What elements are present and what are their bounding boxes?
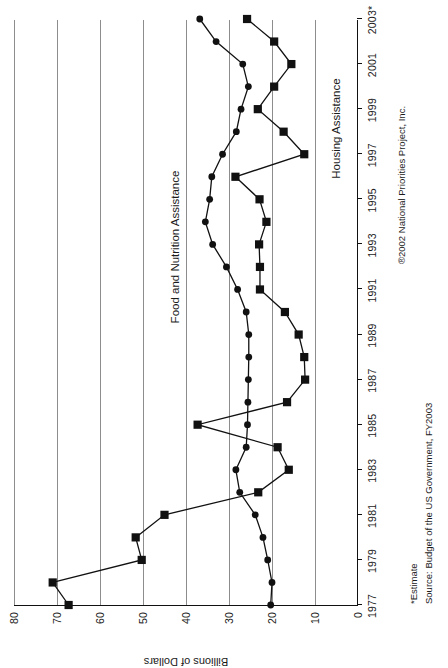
x-tick-label: 2001	[366, 53, 378, 77]
data-point	[132, 533, 140, 541]
x-tick-label: 1995	[366, 188, 378, 212]
data-point	[243, 15, 251, 23]
data-point	[206, 196, 213, 203]
data-point	[245, 331, 252, 338]
data-point	[287, 60, 295, 68]
data-point	[285, 466, 293, 474]
chart-page: Billions of Dollars 01020304050607080 19…	[0, 0, 448, 668]
y-tick-label: 10	[309, 606, 321, 624]
data-point	[233, 128, 240, 135]
y-tick-label: 20	[266, 606, 278, 624]
data-point	[223, 264, 230, 271]
data-point	[160, 511, 168, 519]
data-point	[209, 241, 216, 248]
data-point	[255, 195, 263, 203]
data-point	[239, 61, 246, 68]
copyright-notice: ®2002 National Priorities Project, Inc.	[396, 106, 407, 264]
x-tick-label: 1999	[366, 98, 378, 122]
data-point	[243, 309, 250, 316]
footnote-estimate: *Estimate	[408, 563, 419, 604]
chart-stage: Billions of Dollars 01020304050607080 19…	[0, 0, 448, 668]
x-tick-label: 1997	[366, 143, 378, 167]
data-point	[254, 105, 262, 113]
data-point	[254, 488, 262, 496]
data-point	[232, 466, 239, 473]
y-tick-label: 80	[8, 606, 20, 624]
data-point	[196, 16, 203, 23]
data-point	[138, 556, 146, 564]
data-point	[219, 151, 226, 158]
data-point	[255, 240, 263, 248]
data-point	[236, 489, 243, 496]
y-tick-label: 50	[137, 606, 149, 624]
data-point	[65, 601, 73, 609]
x-tick-label: 1991	[366, 278, 378, 302]
x-tick-label: 1993	[366, 233, 378, 257]
data-point	[243, 444, 250, 451]
y-tick-label: 70	[51, 606, 63, 624]
data-point	[280, 128, 288, 136]
data-point	[238, 106, 245, 113]
x-tick-label: 1985	[366, 414, 378, 438]
data-point	[234, 286, 241, 293]
data-point	[270, 37, 278, 45]
data-point	[283, 398, 291, 406]
data-point	[273, 443, 281, 451]
footnote-source: Source: Budget of the US Government, FY2…	[423, 403, 434, 604]
plot-area	[14, 20, 358, 606]
data-point	[194, 421, 202, 429]
data-point	[267, 602, 274, 609]
series-label-housing: Housing Assistance	[330, 78, 342, 178]
x-tick-label: 2003*	[366, 6, 378, 34]
x-tick-label: 1989	[366, 323, 378, 347]
x-tick-label: 1983	[366, 459, 378, 483]
data-point	[300, 353, 308, 361]
data-point	[260, 534, 267, 541]
data-point	[270, 83, 278, 91]
data-point	[281, 308, 289, 316]
data-point	[202, 218, 209, 225]
data-point	[252, 511, 259, 518]
data-point	[262, 218, 270, 226]
data-point	[231, 173, 239, 181]
data-point	[49, 578, 57, 586]
data-point	[300, 150, 308, 158]
data-point	[295, 330, 303, 338]
y-tick-label: 30	[223, 606, 235, 624]
x-tick-label: 1981	[366, 504, 378, 528]
data-lines	[14, 19, 358, 605]
y-tick-label: 0	[352, 606, 364, 618]
y-tick-label: 60	[94, 606, 106, 624]
data-point	[245, 399, 252, 406]
data-point	[208, 173, 215, 180]
data-point	[256, 285, 264, 293]
y-tick-label: 40	[180, 606, 192, 624]
data-point	[256, 263, 264, 271]
data-point	[264, 557, 271, 564]
x-tick-label: 1987	[366, 369, 378, 393]
data-point	[245, 354, 252, 361]
series-label-food: Food and Nutrition Assistance	[169, 171, 181, 324]
data-point	[301, 376, 309, 384]
data-point	[245, 83, 252, 90]
data-point	[213, 38, 220, 45]
y-axis-title: Billions of Dollars	[144, 656, 228, 668]
data-point	[244, 421, 251, 428]
x-tick-label: 1977	[366, 594, 378, 618]
x-tick-label: 1979	[366, 549, 378, 573]
data-point	[245, 376, 252, 383]
data-point	[269, 579, 276, 586]
